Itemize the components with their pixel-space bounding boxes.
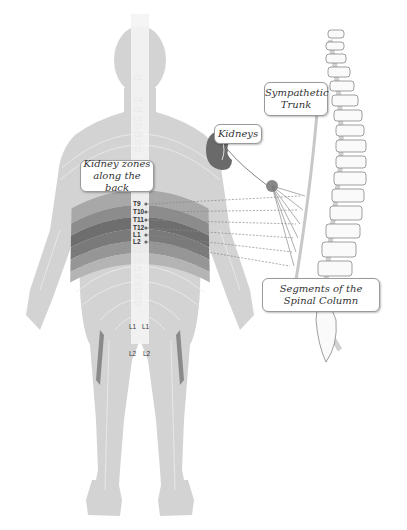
label-line-2: along the back [81,170,153,194]
segment-label-c6: C6 [134,115,142,122]
label-sympathetic-trunk: Sympathetic Trunk [264,82,328,116]
segment-label-t12: T12 [133,224,144,231]
label-segments: Segments of the Spinal Column [262,278,380,312]
segment-label-l1: L1 [133,231,141,238]
segment-label-t9: T9 [133,200,141,207]
segment-label-t11: T11 [133,216,144,223]
segment-label-l2: L2 [133,238,141,245]
leg-label-left-l1: L1 [129,323,136,330]
segment-label-c2: C2 [134,74,142,81]
label-kidneys: Kidneys [214,124,262,144]
segment-label-s5: S5 [134,300,142,307]
segment-label-s1: S1 [134,273,142,280]
segment-label-c5: C5 [134,106,142,113]
segment-label-l4: L4 [134,256,141,263]
segment-label-t2: T2 [134,146,142,153]
spinal-column [316,30,366,362]
label-text: Kidneys [215,128,261,140]
label-line-1: Segments of the [263,283,379,295]
segment-label-c8: C8 [134,131,142,138]
segment-label-s3: S3 [134,287,142,294]
label-line-2: Spinal Column [263,295,379,307]
label-line-2: Trunk [265,99,327,111]
segment-label-t1: T1 [134,139,142,146]
label-line-1: Kidney zones [81,158,153,170]
segment-label-l5: L5 [134,265,141,272]
segment-label-c7: C7 [134,123,142,130]
segment-label-c4: C4 [134,96,142,103]
label-kidney-zones: Kidney zones along the back [80,160,154,192]
sympathetic-trunk-line [296,100,318,280]
leg-label-left-l2: L2 [129,350,136,357]
leg-label-right-l1: L1 [142,323,149,330]
segment-label-l3: L3 [134,247,141,254]
segment-label-t10: T10 [133,208,144,215]
segment-label-s2: S2 [134,280,142,287]
label-line-1: Sympathetic [265,87,327,99]
leg-label-right-l2: L2 [143,350,150,357]
kidney-zones-diagram [0,0,407,530]
